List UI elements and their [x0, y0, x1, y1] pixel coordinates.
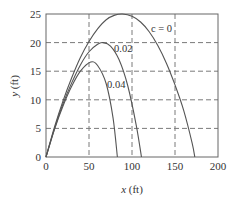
trajectory-curve-2	[46, 62, 117, 157]
label-c004: 0.04	[107, 79, 126, 90]
y-tick-label: 20	[30, 37, 42, 49]
x-tick-labels: 050100150200	[43, 160, 227, 172]
x-tick-label: 0	[43, 160, 49, 172]
y-tick-label: 5	[36, 122, 42, 134]
y-tick-label: 0	[36, 151, 42, 163]
y-tick-label: 25	[30, 8, 42, 20]
trajectory-chart: 050100150200 0510152025 x (ft) y (ft) c …	[0, 0, 244, 199]
x-axis-unit: (ft)	[126, 183, 143, 196]
x-axis-label: x (ft)	[120, 183, 143, 196]
y-tick-label: 10	[30, 94, 42, 106]
y-tick-label: 15	[30, 65, 42, 77]
x-tick-label: 200	[210, 160, 227, 172]
y-tick-labels: 0510152025	[30, 8, 42, 163]
x-tick-label: 50	[84, 160, 96, 172]
x-tick-label: 100	[124, 160, 141, 172]
label-c002: 0.02	[114, 43, 132, 54]
y-axis-unit: (ft)	[8, 75, 21, 92]
y-axis-label: y (ft)	[8, 75, 21, 98]
x-tick-label: 150	[167, 160, 184, 172]
label-c0: c = 0	[151, 23, 172, 34]
